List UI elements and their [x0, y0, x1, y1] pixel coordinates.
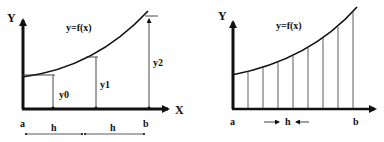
node-a: [52, 107, 55, 110]
x-start-label: a: [230, 116, 235, 127]
ordinate-label-y0: y0: [59, 89, 69, 100]
ordinate-label-y2: y2: [153, 57, 163, 68]
right-panel: Y y=f(x) a b h: [218, 7, 375, 127]
x-end-label: b: [353, 116, 359, 127]
x-start-label: a: [20, 118, 25, 129]
diagram-canvas: Y X y=f(x) y0 y1 y2 a b h h: [0, 0, 384, 142]
x-axis-label: X: [175, 103, 184, 117]
interval-label-h2: h: [110, 122, 116, 133]
curve-label: y=f(x): [66, 22, 92, 34]
curve-label: y=f(x): [276, 20, 302, 32]
interval-label-h1: h: [51, 122, 57, 133]
x-end-label: b: [143, 118, 149, 129]
y-axis-label: Y: [218, 9, 227, 23]
curve: [22, 11, 148, 77]
node-b: [148, 107, 151, 110]
left-panel: Y X y=f(x) y0 y1 y2 a b h h: [7, 11, 184, 135]
y-axis-label: Y: [7, 11, 16, 25]
interval-label-h: h: [285, 116, 291, 127]
ordinate-label-y1: y1: [100, 79, 110, 90]
node-mid: [95, 107, 98, 110]
interval-dimension-lines: [25, 133, 145, 135]
